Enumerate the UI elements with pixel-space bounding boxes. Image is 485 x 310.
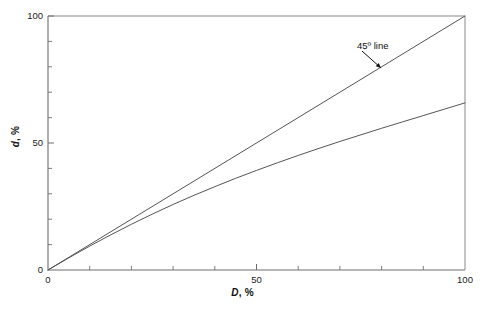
chart-figure: D, % d, % 050100050100 45º line	[0, 0, 485, 310]
plot-area	[0, 0, 485, 310]
x-axis-title-symbol: D	[231, 287, 238, 298]
x-tick-label: 100	[445, 274, 485, 285]
x-axis-title: D, %	[0, 287, 485, 298]
y-tick-label: 50	[3, 137, 43, 148]
x-axis-ticks	[90, 264, 424, 270]
y-tick-label: 0	[3, 264, 43, 275]
y-axis-ticks	[48, 16, 54, 245]
x-tick-label: 50	[237, 274, 277, 285]
annotation-45-degree-line-label: 45º line	[357, 40, 388, 51]
x-axis-title-unit: , %	[239, 287, 254, 298]
x-tick-label: 0	[28, 274, 68, 285]
annotation-leader-group	[362, 51, 381, 68]
data-series-line	[48, 103, 465, 270]
data-series-line	[48, 16, 465, 270]
data-series-group	[48, 16, 465, 270]
y-tick-label: 100	[3, 10, 43, 21]
